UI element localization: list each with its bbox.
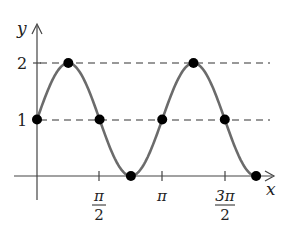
- data-point: [157, 115, 167, 125]
- data-point: [32, 115, 42, 125]
- tick-label-pi-half-den: 2: [94, 206, 104, 224]
- x-axis-label: x: [266, 179, 276, 199]
- data-point: [126, 171, 136, 181]
- tick-label-y1: 1: [17, 111, 27, 130]
- data-point: [251, 171, 261, 181]
- chart-canvas: y 2 1 x π 2 π 3π 2: [0, 0, 294, 233]
- tick-label-pi-half-num: π: [93, 187, 105, 205]
- tick-label-3pi-half-num: 3π: [215, 187, 236, 205]
- data-point: [189, 58, 199, 68]
- tick-label-3pi-half-den: 2: [220, 206, 230, 224]
- tick-label-pi: π: [156, 187, 168, 205]
- data-point: [63, 58, 73, 68]
- tick-label-y2: 2: [17, 54, 27, 73]
- data-point: [220, 115, 230, 125]
- y-axis-label: y: [16, 18, 27, 38]
- data-point: [95, 115, 105, 125]
